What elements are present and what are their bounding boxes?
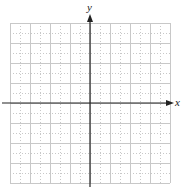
- y-axis-label: y: [87, 2, 92, 13]
- coordinate-plane: [0, 0, 182, 189]
- x-axis-label: x: [175, 97, 180, 108]
- y-axis-arrow-icon: [87, 14, 93, 22]
